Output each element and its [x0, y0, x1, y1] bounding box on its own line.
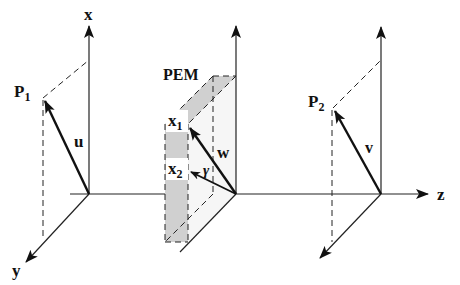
- right-frame: v P2: [308, 27, 381, 258]
- left-frame: x y u P1: [12, 5, 93, 280]
- vector-w-label: w: [217, 143, 230, 162]
- vector-u-label: u: [74, 132, 83, 151]
- y-axis-label: y: [12, 261, 21, 280]
- vector-v-label: v: [365, 139, 373, 156]
- p2-projection-x: [333, 60, 381, 108]
- point-p1-label: P1: [14, 82, 30, 104]
- z-axis-label: z: [437, 185, 445, 204]
- angle-gamma-label: γ: [203, 162, 210, 178]
- vector-v: [335, 111, 381, 194]
- point-p2-label: P2: [308, 92, 324, 114]
- x-axis-label: x: [84, 5, 93, 24]
- right-y-axis: [320, 194, 381, 258]
- y-axis: [26, 194, 89, 262]
- pem-vector-diagram: z x y u P1: [0, 0, 460, 285]
- pem-front-strip: [165, 124, 188, 242]
- middle-frame: x1 x2 w γ PEM: [163, 26, 236, 252]
- pem-label: PEM: [163, 66, 199, 83]
- p1-projection-x: [43, 60, 89, 98]
